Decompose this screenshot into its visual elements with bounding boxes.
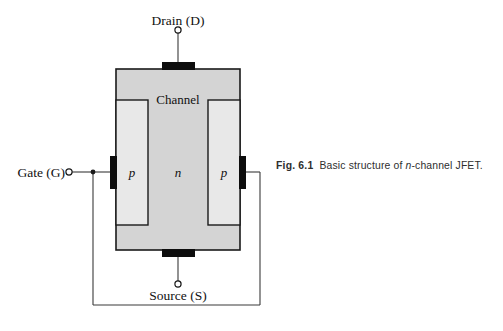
p-region-left-label: p	[128, 165, 136, 180]
gate-label: Gate (G)	[17, 165, 65, 180]
figure-container: Drain (D) Source (S) Gate (G) Channel p …	[0, 0, 503, 331]
figure-caption: Fig. 6.1 Basic structure of n-channel JF…	[276, 159, 500, 172]
gate-contact-pad-left	[110, 156, 117, 189]
n-region-label: n	[175, 165, 182, 180]
figure-number: Fig. 6.1	[276, 160, 313, 171]
source-terminal-circle-icon	[175, 281, 181, 287]
caption-text-after: -channel JFET.	[411, 160, 482, 171]
source-label: Source (S)	[149, 288, 206, 303]
source-contact-pad	[162, 249, 195, 257]
caption-text-before: Basic structure of	[319, 160, 405, 171]
gate-contact-pad-right	[239, 156, 246, 189]
drain-contact-pad	[162, 62, 195, 70]
source-wiring-group	[175, 257, 181, 287]
drain-wiring-group	[175, 27, 181, 62]
drain-label: Drain (D)	[152, 13, 205, 28]
gate-terminal-circle-icon	[66, 169, 72, 175]
p-region-right-label: p	[220, 165, 228, 180]
p-region-left-rect	[116, 100, 148, 225]
channel-label: Channel	[156, 92, 200, 107]
p-region-right-rect	[208, 100, 240, 225]
gate-junction-dot	[91, 170, 96, 175]
